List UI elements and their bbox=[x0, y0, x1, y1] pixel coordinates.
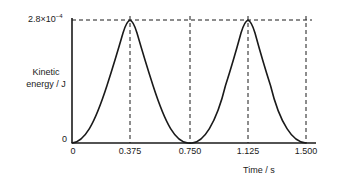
x-axis-tick-label-0750: 0.750 bbox=[179, 146, 202, 156]
x-axis-tick-label-0375: 0.375 bbox=[119, 146, 142, 156]
y-axis-title-line-1: Kinetic bbox=[18, 66, 74, 78]
y-axis-title-line-2: energy / J bbox=[18, 78, 74, 90]
y-axis-max-exponent: −4 bbox=[56, 13, 63, 19]
x-axis-title: Time / s bbox=[243, 165, 275, 176]
chart-plot-area bbox=[0, 0, 338, 185]
y-axis-zero-tick-label: 0 bbox=[62, 134, 67, 145]
y-axis-max-mantissa: 2.8×10 bbox=[28, 14, 56, 24]
x-axis-tick-label-1125: 1.125 bbox=[237, 146, 260, 156]
y-axis-title: Kinetic energy / J bbox=[18, 66, 74, 90]
x-axis-tick-label-1500: 1.500 bbox=[295, 146, 318, 156]
kinetic-energy-vs-time-chart: 2.8×10−4 0 Kinetic energy / J 0 0.375 0.… bbox=[0, 0, 338, 185]
y-axis-max-tick-label: 2.8×10−4 bbox=[28, 14, 63, 25]
kinetic-energy-curve bbox=[72, 20, 306, 143]
x-axis-tick-label-0: 0 bbox=[70, 146, 75, 156]
